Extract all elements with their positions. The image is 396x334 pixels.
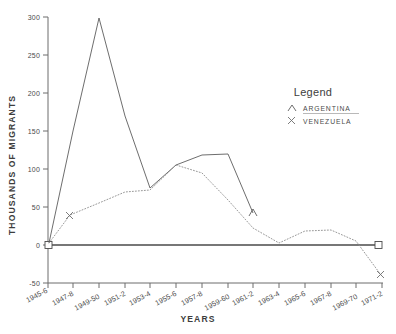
y-tick-label-300: 300 [28,14,40,21]
x-tick-label-1955-6: 1955-6 [153,289,178,308]
y-axis: 300 250 200 150 100 50 0 -50 THOUSANDS O… [7,14,48,287]
x-tick-label-1961-2: 1961-2 [230,289,255,308]
x-axis: 1945-6 1947-8 1949-50 1951-2 1953-4 1955… [24,283,384,324]
x-tick-label-1957-8: 1957-8 [179,289,204,308]
series-argentina [49,18,257,243]
x-tick-label-1947-8: 1947-8 [50,289,75,308]
y-tick-label-200: 200 [28,90,40,97]
legend-item-argentina: ARGENTINA [288,105,359,114]
legend-label-venezuela: VENEZUELA [303,118,352,125]
venezuela-start-x-marker [66,212,73,219]
legend-label-argentina: ARGENTINA [303,105,351,112]
migration-line-chart: 300 250 200 150 100 50 0 -50 THOUSANDS O… [0,0,396,334]
y-tick-label-100: 100 [28,166,40,173]
y-tick-label-250: 250 [28,52,40,59]
argentina-line [49,18,253,243]
x-tick-label-1971-2: 1971-2 [359,289,384,308]
venezuela-end-x-marker [377,271,384,278]
x-axis-title: YEARS [180,314,215,324]
x-tick-label-1965-6: 1965-6 [282,289,307,308]
x-tick-label-1969-70: 1969-70 [331,292,359,313]
baseline-end-square-marker [375,242,382,249]
y-tick-label-50: 50 [32,204,40,211]
x-tick-label-1949-50: 1949-50 [73,292,101,313]
venezuela-line [49,165,381,275]
series-venezuela [49,165,384,278]
y-axis-title: THOUSANDS OF MIGRANTS [7,95,17,235]
x-tick-label-1945-6: 1945-6 [24,286,49,305]
x-tick-label-1963-4: 1963-4 [256,289,281,308]
legend-caret-up-icon [288,105,296,111]
x-tick-label-1967-8: 1967-8 [308,289,333,308]
x-tick-label-1951-2: 1951-2 [102,289,127,308]
legend: Legend ARGENTINA VENEZUELA [288,86,359,125]
y-tick-label-0: 0 [36,242,40,249]
x-tick-label-1953-4: 1953-4 [127,289,152,308]
legend-item-venezuela: VENEZUELA [288,117,352,125]
y-tick-label-150: 150 [28,128,40,135]
legend-cross-x-icon [288,117,295,124]
baseline-start-square-marker [45,242,52,249]
legend-title: Legend [294,86,333,98]
x-tick-label-1959-60: 1959-60 [203,292,231,313]
chart-canvas: 300 250 200 150 100 50 0 -50 THOUSANDS O… [0,0,396,334]
y-tick-label-neg50: -50 [29,280,40,287]
